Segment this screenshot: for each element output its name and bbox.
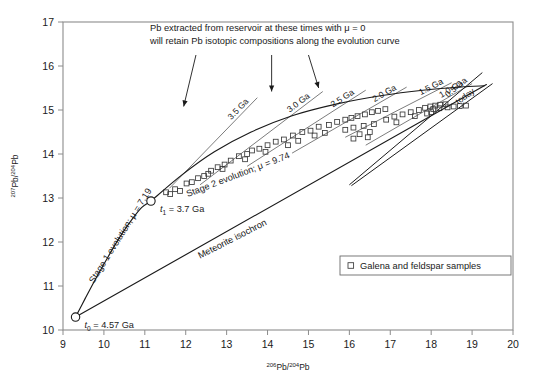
x-tick-label: 12	[180, 338, 192, 350]
sample-marker	[376, 108, 381, 113]
y-tick-label: 17	[42, 16, 54, 28]
x-tick-label: 15	[303, 338, 315, 350]
sample-marker	[273, 139, 278, 144]
sample-marker	[357, 132, 362, 137]
sample-marker	[392, 114, 397, 119]
arrow-head	[314, 81, 319, 88]
y-tick-label: 13	[42, 192, 54, 204]
plot-frame	[63, 22, 513, 330]
isochron-line-0-5-ga	[349, 73, 482, 185]
reservoir-note-line2: will retain Pb isotopic compositions alo…	[149, 36, 400, 46]
plot-border	[63, 22, 513, 330]
y-axis-ticks: 1011121314151617	[42, 16, 63, 336]
x-tick-label: 19	[466, 338, 478, 350]
x-tick-label: 11	[139, 338, 150, 350]
x-axis-title-text: 206Pb/204Pb	[266, 362, 309, 372]
sample-marker	[363, 112, 368, 117]
sample-marker	[351, 125, 356, 130]
sample-marker	[243, 157, 248, 162]
isochron-label-2-5-ga: 2.5 Ga	[329, 87, 356, 109]
sample-marker	[369, 110, 374, 115]
sample-marker	[417, 108, 422, 113]
x-axis-ticks: 91011121314151617181920	[60, 330, 519, 350]
x-tick-label: 13	[221, 338, 233, 350]
sample-marker	[327, 123, 332, 128]
sample-marker	[451, 104, 456, 109]
isochron-labels: 3.5 Ga3.0 Ga2.5 Ga2.0 Ga1.5 Ga1.0 Ga0.5 …	[225, 75, 477, 122]
time-nodes: t0 = 4.57 Gat1 = 3.7 Ga	[71, 197, 205, 332]
sample-marker	[351, 136, 356, 141]
x-tick-label: 18	[425, 338, 437, 350]
y-tick-label: 12	[42, 236, 54, 248]
stage1-label-text: Stage 1 evolution; μ = 7.19	[87, 186, 154, 284]
x-tick-label: 10	[98, 338, 110, 350]
isochron-label-2-0-ga: 2.0 Ga	[370, 82, 398, 104]
y-axis-title-text: 207Pb/204Pb	[10, 154, 20, 197]
x-axis-title: 206Pb/204Pb	[266, 362, 309, 372]
sample-marker	[383, 107, 388, 112]
y-tick-label: 16	[42, 60, 54, 72]
sample-marker	[189, 180, 194, 185]
sample-marker	[308, 128, 313, 133]
sample-marker	[173, 187, 178, 192]
x-tick-label: 16	[344, 338, 356, 350]
legend-label: Galena and feldspar samples	[360, 261, 481, 271]
annotation-arrow	[308, 55, 319, 88]
y-tick-label: 15	[42, 104, 54, 116]
sample-marker	[343, 127, 348, 132]
y-tick-label: 11	[43, 280, 54, 292]
annotation-text: Pb extracted from reservoir at these tim…	[87, 23, 400, 285]
sample-marker	[335, 119, 340, 124]
sample-marker	[184, 181, 189, 186]
arrow-head	[183, 100, 188, 106]
x-tick-label: 17	[384, 338, 396, 350]
sample-marker	[196, 176, 201, 181]
curve-stage-1-evolution	[76, 201, 151, 317]
sample-marker	[394, 120, 399, 125]
time-node-label-t0: t0 = 4.57 Ga	[85, 320, 135, 332]
sample-marker	[296, 138, 301, 143]
meteorite-label: Meteorite isochron	[196, 217, 268, 260]
y-axis-title: 207Pb/204Pb	[10, 154, 20, 197]
reservoir-note-line1: Pb extracted from reservoir at these tim…	[150, 23, 365, 33]
annotation-arrow	[269, 55, 274, 92]
chart-svg: 91011121314151617181920 1011121314151617…	[0, 0, 543, 376]
sample-marker	[365, 135, 370, 140]
time-node-t0	[71, 313, 79, 321]
sample-marker	[250, 148, 255, 153]
x-tick-label: 20	[507, 338, 519, 350]
arrow-shaft	[184, 55, 196, 106]
pb-isotope-evolution-figure: 91011121314151617181920 1011121314151617…	[0, 0, 543, 376]
sample-marker	[367, 130, 372, 135]
sample-marker	[265, 143, 270, 148]
sample-marker	[286, 143, 291, 148]
chart-legend[interactable]: Galena and feldspar samples	[340, 256, 511, 275]
time-node-label-t1: t1 = 3.7 Ga	[160, 204, 205, 216]
isochron-label-text: 2.0 Ga	[370, 82, 398, 104]
arrow-head	[269, 86, 274, 92]
sample-marker	[245, 152, 250, 157]
x-tick-label: 14	[262, 338, 274, 350]
x-tick-label: 9	[60, 338, 66, 350]
sample-marker	[316, 124, 321, 129]
annotation-arrow	[183, 55, 196, 106]
stage2-label: Stage 2 evolution; μ = 9.74	[185, 150, 291, 199]
sample-marker	[209, 168, 214, 173]
sample-marker	[215, 165, 220, 170]
sample-marker	[400, 112, 405, 117]
isochron-label-text: 2.5 Ga	[329, 87, 356, 109]
stage1-label: Stage 1 evolution; μ = 7.19	[87, 186, 154, 284]
sample-marker	[257, 146, 262, 151]
y-tick-label: 14	[42, 148, 54, 160]
meteorite-label-text: Meteorite isochron	[196, 217, 268, 260]
y-tick-label: 10	[42, 324, 54, 336]
sample-marker	[178, 189, 183, 194]
sample-marker	[312, 133, 317, 138]
sample-marker	[384, 117, 389, 122]
stage2-label-text: Stage 2 evolution; μ = 9.74	[185, 150, 291, 199]
